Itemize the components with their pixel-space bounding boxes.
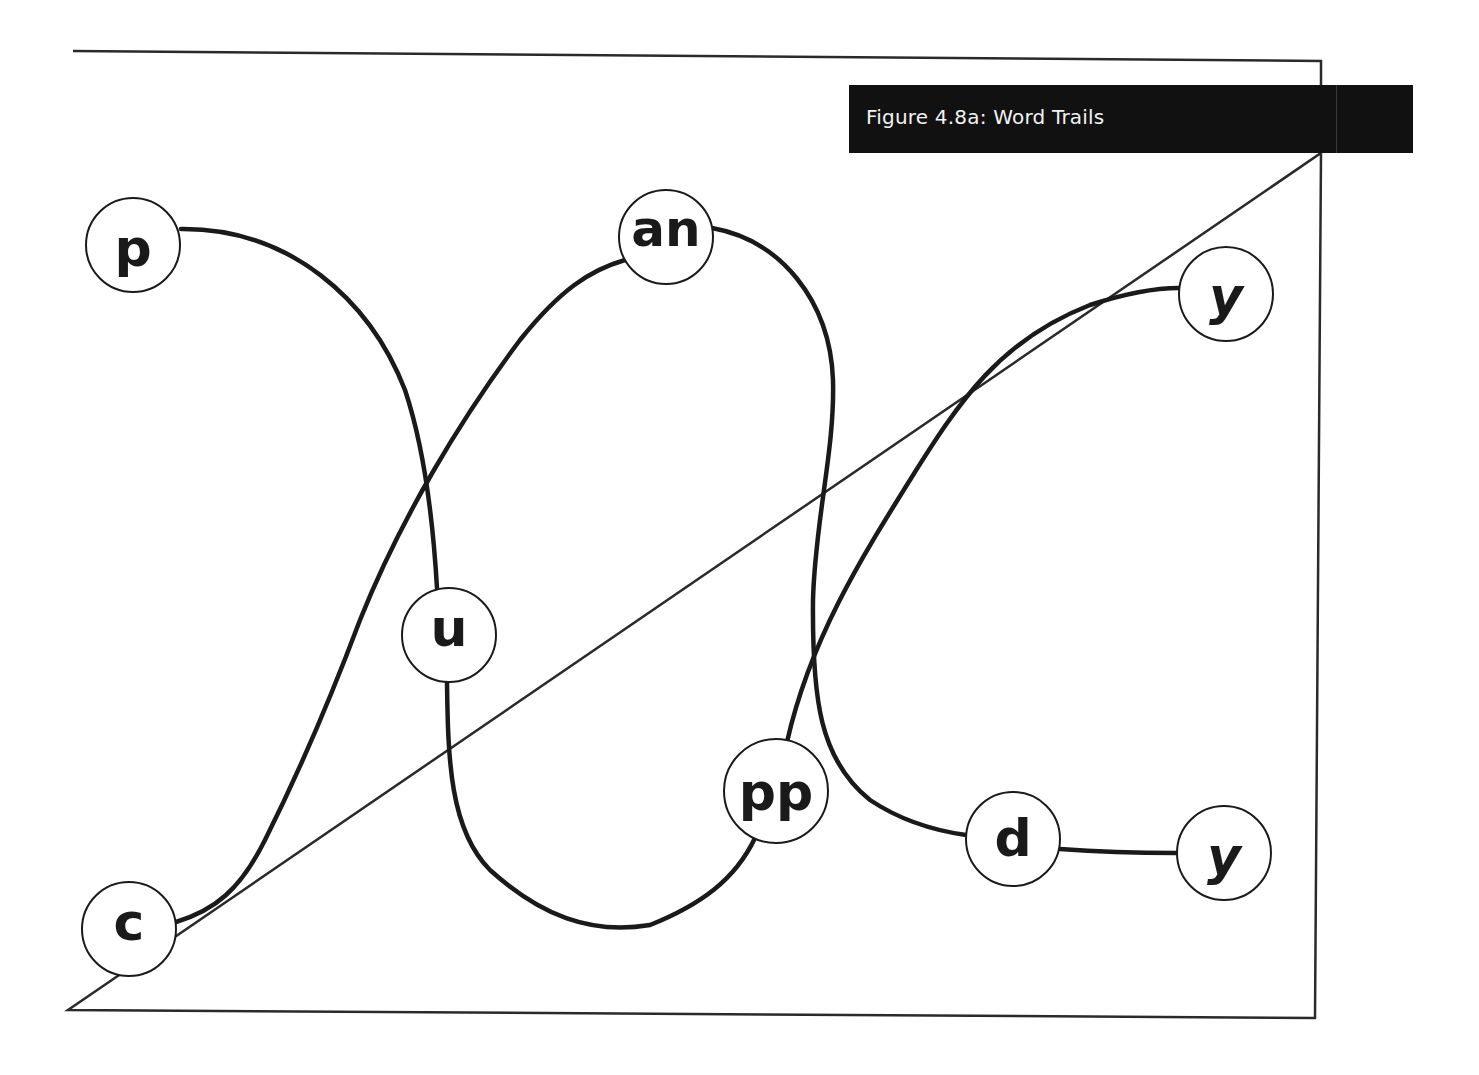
trail-pp-to-y: [787, 288, 1179, 742]
node-label: an: [631, 200, 700, 258]
node-y-bottom: y: [1177, 806, 1271, 900]
node-label: d: [994, 808, 1031, 868]
caption-divider: [1336, 85, 1337, 153]
node-label: p: [114, 218, 151, 278]
node-label: u: [430, 598, 467, 658]
node-label: y: [1209, 266, 1245, 326]
trail-an-to-d: [712, 228, 966, 835]
node-c: c: [82, 882, 176, 976]
figure-caption-bar: Figure 4.8a: Word Trails: [849, 85, 1413, 153]
figure-title: Figure 4.8a: Word Trails: [866, 105, 1104, 129]
node-y-top: y: [1179, 247, 1273, 341]
node-an: an: [619, 190, 713, 284]
node-p: p: [86, 198, 180, 292]
node-u: u: [402, 588, 496, 682]
node-label: c: [114, 892, 145, 952]
node-d: d: [966, 792, 1060, 886]
node-pp: pp: [724, 739, 828, 843]
node-label: pp: [739, 762, 813, 822]
trail-d-to-y: [1060, 849, 1177, 853]
figure-frame: [68, 51, 1321, 1018]
trail-c-to-an: [176, 260, 625, 922]
word-trails-diagram: p an y u pp d y c: [0, 0, 1479, 1075]
node-label: y: [1207, 826, 1243, 886]
